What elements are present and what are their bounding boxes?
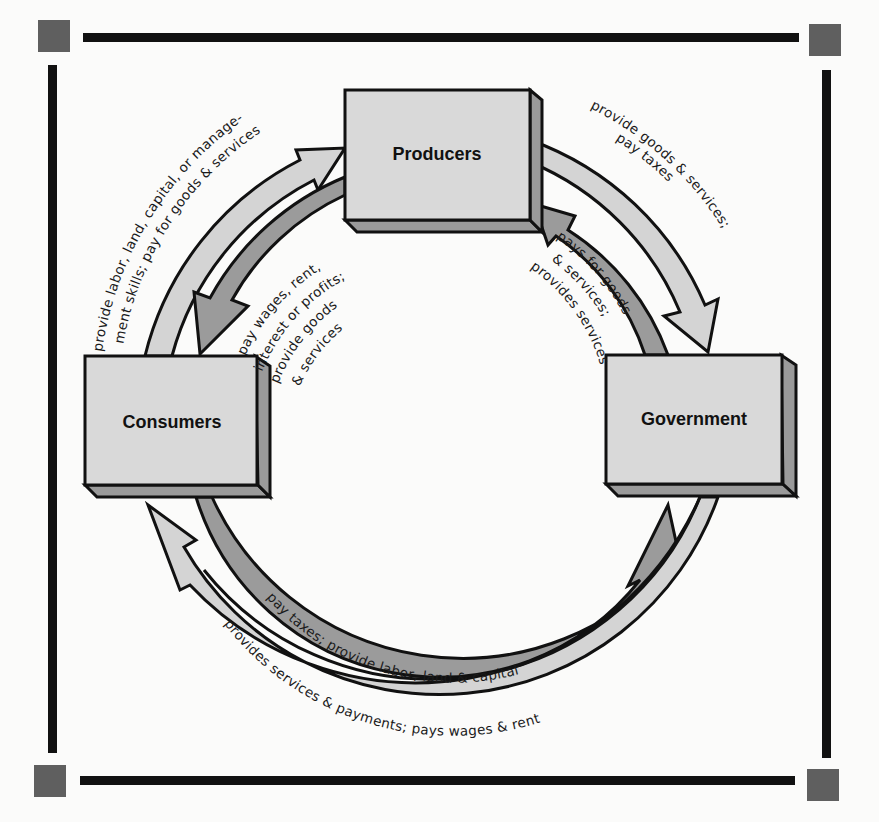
node-government: Government [606,355,796,496]
node-label-producers: Producers [392,144,481,164]
frame-bottom-bar [80,776,795,785]
corner-square-top-right [809,24,841,56]
corner-square-top-left [38,20,70,52]
corner-square-bottom-left [34,765,66,797]
node-label-government: Government [641,409,747,429]
corner-square-bottom-right [807,769,839,801]
frame-right-bar [822,70,831,758]
node-producers: Producers [345,90,542,232]
arrow-consumers-to-government [196,497,680,677]
frame-left-bar [48,65,57,753]
node-label-consumers: Consumers [122,412,221,432]
node-consumers: Consumers [85,356,270,497]
frame-top-bar [83,33,799,42]
circular-flow-diagram: Producers Consumers Government provide l… [0,0,879,822]
